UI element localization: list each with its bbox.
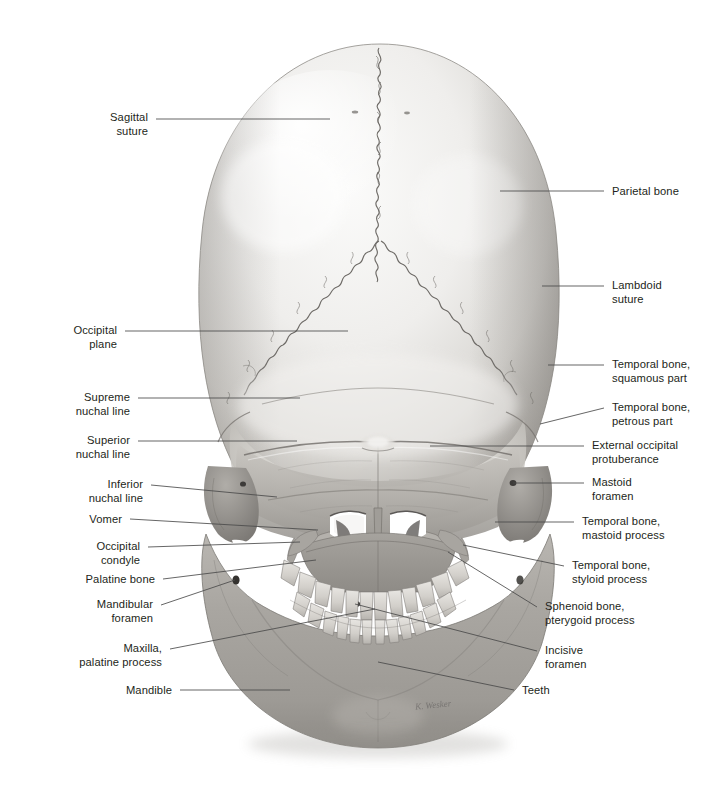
label-maxilla-palatine-process: Maxilla, palatine process (79, 641, 162, 669)
skull-figure: Sagittal sutureOccipital planeSupreme nu… (0, 0, 705, 809)
label-palatine-bone: Palatine bone (86, 572, 155, 586)
label-temporal-styloid-process: Temporal bone, styloid process (572, 558, 650, 586)
label-temporal-squamous: Temporal bone, squamous part (612, 357, 690, 385)
mastoid-process-left (204, 466, 259, 543)
label-temporal-petrous: Temporal bone, petrous part (612, 400, 690, 428)
mastoid-process-right (497, 466, 552, 543)
label-mastoid-foramen: Mastoid foramen (592, 475, 634, 503)
label-vomer: Vomer (89, 512, 122, 526)
label-temporal-mastoid-process: Temporal bone, mastoid process (582, 514, 665, 542)
label-mandibular-foramen: Mandibular foramen (97, 597, 153, 625)
label-inferior-nuchal-line: Inferior nuchal line (89, 477, 143, 505)
leader-occipital-condyle (148, 542, 300, 547)
external-occipital-protuberance-mark (361, 435, 395, 453)
label-occipital-plane: Occipital plane (73, 323, 117, 351)
label-superior-nuchal-line: Superior nuchal line (76, 433, 130, 461)
label-sphenoid-pterygoid-process: Sphenoid bone, pterygoid process (545, 599, 635, 627)
label-parietal-bone: Parietal bone (612, 184, 679, 198)
label-incisive-foramen: Incisive foramen (545, 643, 587, 671)
label-lambdoid-suture: Lambdoid suture (612, 278, 662, 306)
label-mandible: Mandible (126, 683, 172, 697)
label-supreme-nuchal-line: Supreme nuchal line (76, 390, 130, 418)
label-teeth: Teeth (522, 683, 550, 697)
label-occipital-condyle: Occipital condyle (96, 539, 140, 567)
label-external-occipital-protuberance: External occipital protuberance (592, 438, 678, 466)
label-sagittal-suture: Sagittal suture (110, 110, 148, 138)
leader-temporal-petrous (540, 408, 604, 424)
